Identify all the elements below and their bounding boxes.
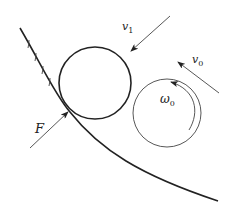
velocity-v1-arrow	[131, 16, 170, 51]
label-v0: v0	[192, 53, 203, 68]
ball-outgoing	[59, 47, 131, 119]
diagram-canvas: v1 v0 ω0 F	[0, 0, 234, 212]
ball-incoming	[133, 79, 201, 147]
label-v1: v1	[122, 20, 133, 35]
label-f: F	[34, 121, 45, 136]
label-omega0: ω0	[160, 92, 175, 108]
curved-surface	[20, 28, 218, 201]
